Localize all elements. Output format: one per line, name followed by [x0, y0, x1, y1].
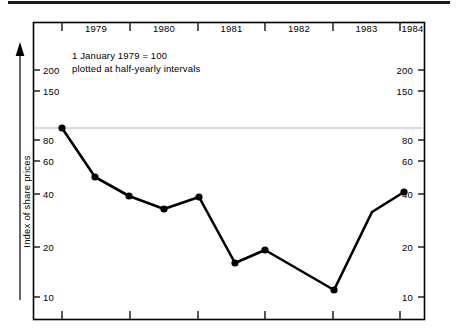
y-tick-label-right-80: 80: [385, 135, 413, 146]
y-tick-label-right-60: 60: [385, 156, 413, 167]
share-price-chart-figure: 1979 1980 1981 1982 1983 1984 200 150 80…: [0, 0, 460, 334]
data-point: [58, 124, 65, 131]
page-root: 1979 1980 1981 1982 1983 1984 200 150 80…: [0, 0, 460, 334]
data-point: [231, 259, 238, 266]
y-axis-title: Index of share prices: [21, 127, 32, 277]
series-markers-share-prices: [58, 124, 407, 293]
chart-note-base-index: 1 January 1979 = 100: [72, 50, 167, 61]
y-tick-label-left-20: 20: [43, 242, 54, 253]
y-tick-label-right-20: 20: [385, 242, 413, 253]
chart-canvas: [0, 0, 460, 334]
y-tick-label-right-200: 200: [385, 65, 413, 76]
left-axis-ticks: [34, 70, 40, 297]
x-tick-label-1980: 1980: [130, 23, 198, 34]
x-tick-label-1983: 1983: [333, 23, 400, 34]
x-tick-label-1979: 1979: [62, 23, 130, 34]
chart-note-interval: plotted at half-yearly intervals: [72, 63, 200, 74]
x-tick-label-1984: 1984: [400, 23, 425, 34]
y-tick-label-left-40: 40: [43, 189, 54, 200]
bottom-axis-ticks: [62, 311, 400, 319]
right-axis-ticks: [418, 70, 424, 297]
x-tick-label-1981: 1981: [198, 23, 265, 34]
data-point: [160, 205, 167, 212]
y-tick-label-right-40: 40: [385, 189, 413, 200]
y-tick-label-left-150: 150: [43, 86, 59, 97]
data-point: [91, 173, 98, 180]
data-point: [195, 193, 202, 200]
y-tick-label-right-150: 150: [385, 86, 413, 97]
data-point: [261, 246, 268, 253]
x-tick-label-1982: 1982: [265, 23, 333, 34]
y-tick-label-left-10: 10: [43, 292, 54, 303]
y-tick-label-left-60: 60: [43, 156, 54, 167]
y-tick-label-left-200: 200: [43, 65, 59, 76]
y-tick-label-right-10: 10: [385, 292, 413, 303]
y-tick-label-left-80: 80: [43, 135, 54, 146]
data-point: [330, 286, 337, 293]
data-point: [125, 192, 132, 199]
